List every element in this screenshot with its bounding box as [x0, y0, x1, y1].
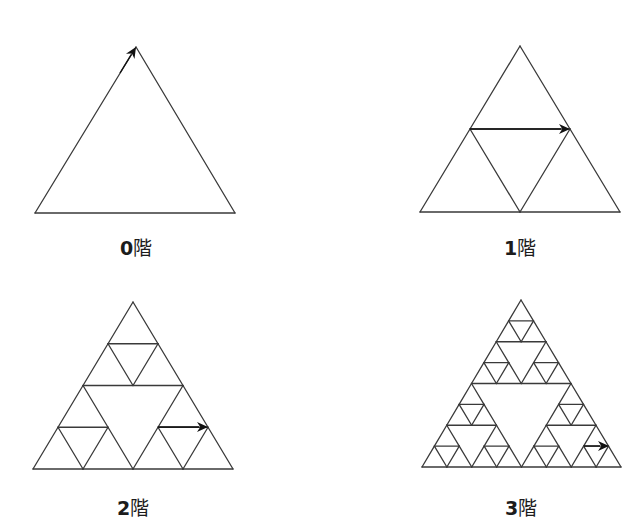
order-suffix: 階	[130, 497, 149, 519]
order-number: 3	[505, 497, 518, 519]
order-0-triangle	[35, 47, 235, 213]
order-0-arrow-icon	[120, 47, 136, 73]
order-3-arrow-icon	[584, 441, 609, 451]
order-1-label: 1階	[460, 233, 580, 260]
order-number: 2	[117, 497, 130, 519]
order-suffix: 階	[517, 237, 536, 259]
order-3-triangle	[422, 300, 621, 467]
order-2-arrow-icon	[158, 422, 208, 432]
order-3-label: 3階	[461, 493, 581, 520]
order-suffix: 階	[518, 497, 537, 519]
order-2-triangle	[33, 302, 233, 469]
sierpinski-diagram	[0, 0, 644, 528]
order-suffix: 階	[133, 237, 152, 259]
order-number: 0	[120, 237, 133, 259]
order-0-label: 0階	[76, 233, 196, 260]
order-2-label: 2階	[73, 493, 193, 520]
order-1-arrow-icon	[470, 124, 570, 134]
order-number: 1	[504, 237, 517, 259]
